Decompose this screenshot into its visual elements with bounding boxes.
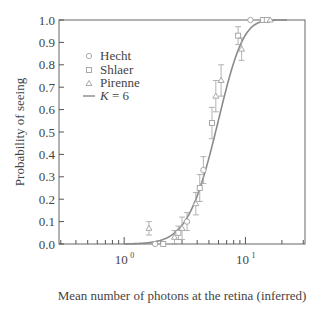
plot-frame: [59, 20, 305, 244]
probability-of-seeing-chart: 0.00.10.20.30.40.50.60.70.80.91.0 100101…: [0, 0, 322, 321]
y-tick-label: 0.4: [39, 147, 56, 162]
shlaer-marker: [197, 186, 202, 191]
y-tick-label: 0.9: [39, 35, 55, 50]
legend: Hecht Shlaer Pirenne K = 6: [83, 48, 140, 103]
y-tick-label: 0.8: [39, 57, 55, 72]
y-tick-label: 0.0: [39, 237, 55, 252]
y-tick-label: 0.1: [39, 214, 55, 229]
hecht-marker: [248, 17, 253, 22]
legend-circle-icon: [86, 53, 91, 58]
pirenne-marker: [218, 77, 224, 82]
y-axis-title: Probability of seeing: [12, 77, 27, 186]
shlaer-marker: [176, 230, 181, 235]
hecht-marker: [201, 167, 206, 172]
y-tick-label: 0.3: [39, 169, 55, 184]
y-tick-label: 0.7: [39, 80, 56, 95]
data-points: [146, 17, 273, 247]
pirenne-marker: [213, 93, 219, 98]
x-tick-label: 10: [236, 252, 249, 267]
x-tick-label: 10: [115, 252, 128, 267]
y-tick-label: 0.6: [39, 102, 56, 117]
hecht-marker: [152, 241, 157, 246]
legend-square-icon: [87, 68, 92, 73]
legend-label-hecht: Hecht: [100, 48, 131, 63]
shlaer-marker: [236, 33, 241, 38]
shlaer-marker: [209, 121, 214, 126]
shlaer-marker: [161, 242, 166, 247]
x-axis-title: Mean number of photons at the retina (in…: [58, 288, 307, 303]
x-tick-exponent: 0: [130, 251, 134, 260]
x-axis: 100101: [61, 237, 303, 267]
pirenne-marker: [146, 225, 152, 230]
x-tick-exponent: 1: [251, 251, 255, 260]
k6-model-curve: [124, 20, 287, 244]
y-tick-label: 0.2: [39, 192, 55, 207]
legend-label-k6: K = 6: [99, 88, 130, 103]
y-tick-label: 1.0: [39, 13, 55, 28]
legend-k-value: = 6: [109, 88, 130, 103]
y-axis: 0.00.10.20.30.40.50.60.70.80.91.0: [39, 13, 64, 252]
legend-triangle-icon: [86, 81, 92, 86]
hecht-marker: [184, 219, 189, 224]
y-tick-label: 0.5: [39, 125, 55, 140]
